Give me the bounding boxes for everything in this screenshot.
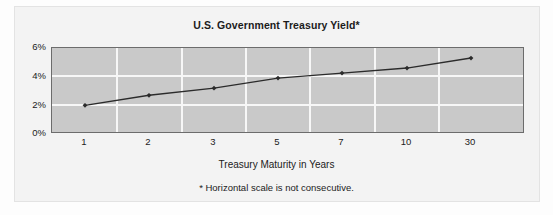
data-point-marker xyxy=(83,103,88,108)
y-tick-label: 4% xyxy=(2,70,46,81)
y-tick-label: 2% xyxy=(2,99,46,110)
x-tick-label: 1 xyxy=(64,136,104,147)
data-point-marker xyxy=(469,56,474,61)
x-tick-label: 2 xyxy=(128,136,168,147)
chart-figure: U.S. Government Treasury Yield* 6% 4% 2%… xyxy=(0,0,553,215)
data-point-marker xyxy=(276,76,281,81)
series-line xyxy=(52,48,524,133)
data-point-marker xyxy=(147,93,152,98)
chart-footnote: * Horizontal scale is not consecutive. xyxy=(0,182,553,193)
x-tick-label: 10 xyxy=(386,136,426,147)
data-point-marker xyxy=(340,71,345,76)
x-tick-label: 5 xyxy=(257,136,297,147)
plot-area xyxy=(51,47,524,133)
x-axis-title: Treasury Maturity in Years xyxy=(0,159,553,170)
chart-title: U.S. Government Treasury Yield* xyxy=(0,19,553,31)
x-tick-label: 30 xyxy=(450,136,490,147)
data-point-marker xyxy=(405,66,410,71)
x-tick-label: 7 xyxy=(321,136,361,147)
y-tick-label: 6% xyxy=(2,41,46,52)
data-point-marker xyxy=(212,86,217,91)
x-axis-tick-labels: 1 2 3 5 7 10 30 xyxy=(0,136,553,152)
x-tick-label: 3 xyxy=(193,136,233,147)
